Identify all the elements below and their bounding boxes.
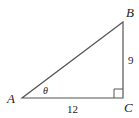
triangle-diagram: B C A θ 12 9 xyxy=(0,0,139,118)
triangle-abc xyxy=(22,22,123,98)
vertex-label-b: B xyxy=(126,5,134,20)
side-label-ac: 12 xyxy=(67,103,78,115)
side-label-bc: 9 xyxy=(128,54,134,66)
angle-label-theta: θ xyxy=(43,85,48,96)
vertex-label-c: C xyxy=(124,100,133,115)
vertex-label-a: A xyxy=(6,91,15,106)
right-angle-marker xyxy=(114,89,123,98)
